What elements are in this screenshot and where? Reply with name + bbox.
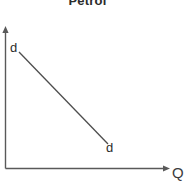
demand-curve-label-end: d	[106, 141, 113, 154]
demand-curve-figure: Petrol d d Q	[0, 0, 195, 182]
x-axis-label: Q	[172, 165, 184, 180]
demand-curve-label-start: d	[10, 41, 17, 54]
chart-canvas	[0, 0, 195, 182]
x-axis-arrow-icon	[163, 165, 170, 171]
demand-curve-line	[19, 52, 108, 144]
y-axis-arrow-icon	[2, 26, 8, 33]
